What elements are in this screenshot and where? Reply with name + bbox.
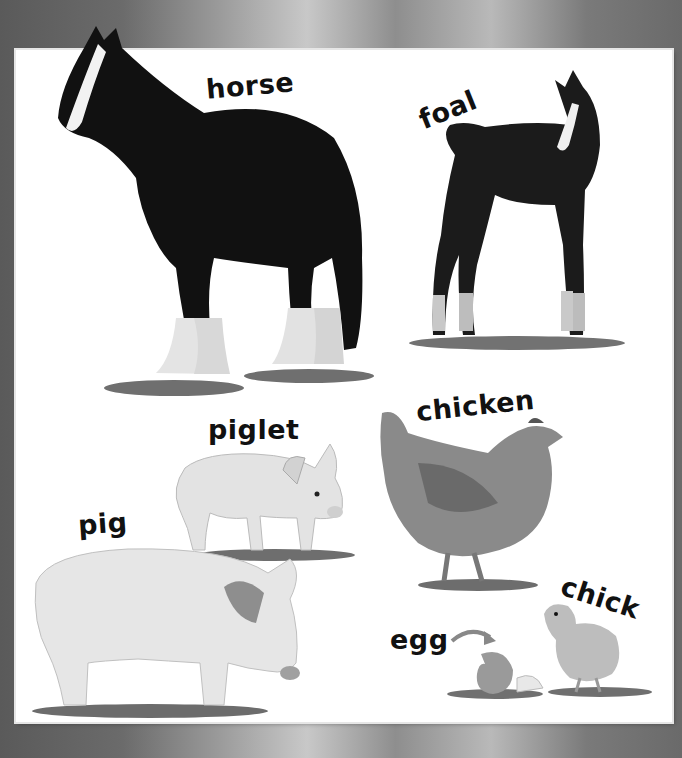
label-egg: egg xyxy=(390,626,448,653)
label-horse: horse xyxy=(205,68,295,103)
eggshell-image xyxy=(445,640,545,700)
chick-image xyxy=(540,600,652,698)
pig-image xyxy=(28,543,308,721)
label-piglet: piglet xyxy=(208,416,299,443)
chicken-image xyxy=(378,403,573,595)
label-pig: pig xyxy=(77,508,128,538)
